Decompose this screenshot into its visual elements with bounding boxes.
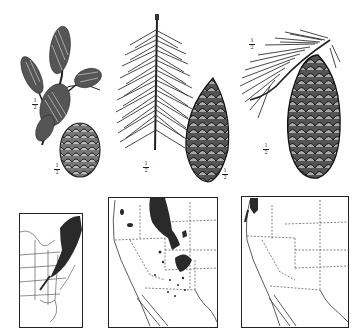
range-map-eastern-us — [20, 214, 83, 328]
right-cone-illustration — [288, 55, 341, 178]
scale-label-middle-branchlet: 12 — [143, 161, 149, 173]
middle-branchlet-illustration — [116, 14, 194, 150]
scale-label-right-cone: 12 — [263, 143, 269, 155]
middle-cone-illustration — [186, 78, 229, 182]
range-map-western-us-2 — [242, 197, 349, 328]
left-cone-illustration — [60, 123, 100, 177]
range-map-western-us-1 — [109, 198, 218, 328]
scale-label-left-cone: 12 — [54, 163, 60, 175]
scale-label-left-branchlet: 12 — [32, 98, 38, 110]
scale-label-right-branchlet: 12 — [249, 38, 255, 50]
scale-label-middle-cone: 12 — [222, 168, 228, 180]
